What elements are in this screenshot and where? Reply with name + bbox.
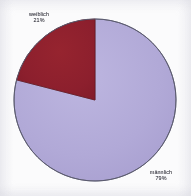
pie-label-maennlich: männlich 79% (139, 169, 183, 181)
pie-label-maennlich-percent: 79% (139, 175, 183, 181)
pie-chart-canvas (13, 17, 177, 183)
pie-label-weiblich: weiblich 21% (18, 11, 60, 23)
pie-chart-figure: weiblich 21% männlich 79% (0, 0, 191, 196)
pie-label-weiblich-percent: 21% (18, 17, 60, 23)
pie-chart-svg (13, 17, 177, 183)
